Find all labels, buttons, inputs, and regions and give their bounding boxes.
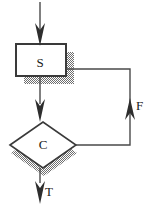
edge-false-loopback-line <box>66 69 130 145</box>
statement-node-label: S <box>29 56 51 69</box>
condition-node-label: C <box>32 138 54 151</box>
false-branch-label: F <box>136 99 150 112</box>
true-branch-label: T <box>45 185 59 198</box>
flowchart-canvas <box>0 0 154 209</box>
arrowhead-true-exit-down <box>35 181 45 204</box>
flowchart-diagram: S C F T <box>0 0 154 209</box>
